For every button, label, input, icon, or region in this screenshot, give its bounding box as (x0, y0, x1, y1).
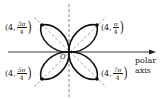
rose-curve-diagram (0, 0, 160, 99)
point-prefix: (4, (5, 24, 16, 32)
polar-axis-label-line1: polar (135, 57, 156, 65)
polar-axis-label-line2: axis (135, 67, 151, 75)
petal-quadrant-2 (41, 25, 69, 52)
point-label-7pi-over-4: (4, 7π 4 ) (101, 67, 128, 81)
point-label-pi-over-4: (4, π 4 ) (101, 21, 124, 35)
point-label-5pi-over-4: (4, 5π 4 ) (5, 67, 32, 81)
angle-fraction: π 4 (113, 21, 119, 35)
polar-axis-arrowhead-icon (149, 50, 156, 55)
angle-fraction: 5π 4 (17, 67, 27, 81)
point-dot-3pi-over-4 (40, 23, 44, 27)
point-dot-7pi-over-4 (95, 77, 99, 81)
petal-quadrant-4 (69, 52, 97, 79)
angle-fraction: 7π 4 (113, 67, 123, 81)
point-dot-5pi-over-4 (40, 77, 44, 81)
angle-fraction: 3π 4 (17, 21, 27, 35)
point-label-3pi-over-4: (4, 3π 4 ) (5, 21, 32, 35)
point-dot-pi-over-4 (95, 23, 99, 27)
petal-quadrant-1 (69, 25, 97, 52)
origin-label: O (60, 54, 66, 61)
point-prefix: (4, (5, 70, 16, 78)
point-prefix: (4, (101, 24, 112, 32)
point-prefix: (4, (101, 70, 112, 78)
